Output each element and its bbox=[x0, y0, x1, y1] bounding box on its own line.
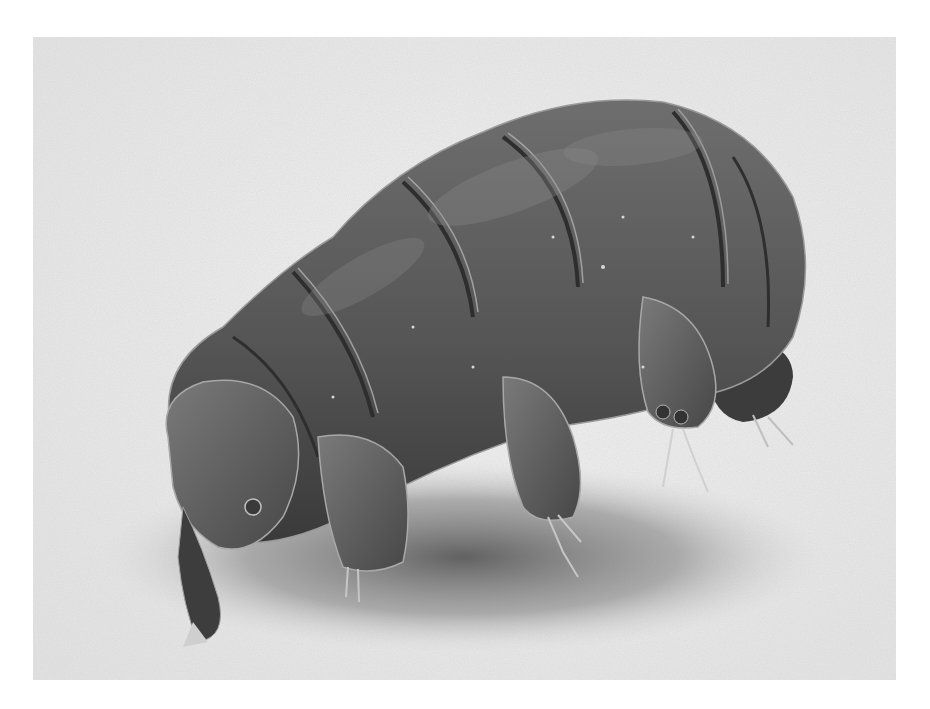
mouth-opening bbox=[245, 499, 261, 515]
tardigrade-micrograph bbox=[33, 37, 896, 680]
micrograph-canvas bbox=[33, 37, 896, 680]
